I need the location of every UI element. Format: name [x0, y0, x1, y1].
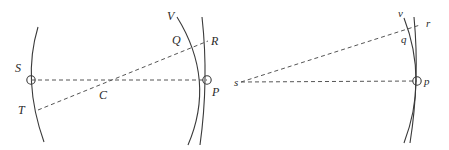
dashed-line-tqr — [38, 41, 208, 110]
left-arc — [31, 27, 44, 142]
dashed-line-small-sqr — [241, 25, 420, 82]
label-q-upper: Q — [172, 34, 181, 46]
label-s-lower: s — [234, 77, 238, 88]
label-r-upper: R — [211, 35, 218, 47]
dashed-line-small-sp — [241, 81, 417, 82]
label-c-upper: C — [99, 89, 107, 101]
diagram-canvas — [0, 0, 449, 150]
right-diagram-group — [241, 17, 421, 143]
label-v-upper: V — [167, 10, 174, 22]
label-p-lower: p — [424, 76, 430, 87]
label-t-upper: T — [18, 104, 25, 116]
label-s-upper: S — [15, 62, 21, 74]
label-v-lower: v — [398, 8, 403, 19]
label-r-lower: r — [426, 18, 430, 29]
left-diagram-group — [27, 17, 211, 145]
label-q-lower: q — [401, 34, 407, 45]
geometry-figure: S T C P Q R V s p q r v — [0, 0, 449, 150]
label-p-upper: P — [212, 86, 219, 98]
